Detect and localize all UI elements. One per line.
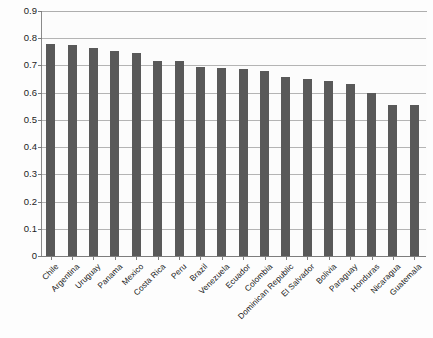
bar bbox=[367, 93, 376, 256]
y-axis-tick-mark bbox=[38, 65, 42, 66]
x-axis: ChileArgentinaUruguayPanamaMexicoCosta R… bbox=[41, 256, 426, 338]
bar-chart: 00.10.20.30.40.50.60.70.80.9 ChileArgent… bbox=[0, 0, 433, 338]
x-axis-tick-mark bbox=[72, 256, 73, 260]
y-axis-tick-label: 0.9 bbox=[3, 6, 37, 16]
bar bbox=[132, 53, 141, 256]
bars-layer bbox=[41, 11, 426, 256]
bar bbox=[260, 71, 269, 256]
bar bbox=[217, 68, 226, 256]
bar bbox=[410, 105, 419, 256]
y-axis: 00.10.20.30.40.50.60.70.80.9 bbox=[0, 0, 37, 338]
x-axis-tick-mark bbox=[136, 256, 137, 260]
y-axis-tick-label: 0.7 bbox=[3, 61, 37, 71]
y-axis-tick-label: 0.5 bbox=[3, 115, 37, 125]
y-axis-tick-label: 0.8 bbox=[3, 33, 37, 43]
bar bbox=[46, 44, 55, 256]
y-axis-tick-label: 0.3 bbox=[3, 170, 37, 180]
x-axis-tick-mark bbox=[93, 256, 94, 260]
bar bbox=[68, 45, 77, 256]
x-axis-tick-mark bbox=[393, 256, 394, 260]
bar bbox=[324, 81, 333, 256]
x-axis-tick-mark bbox=[307, 256, 308, 260]
y-axis-tick-mark bbox=[38, 93, 42, 94]
y-axis-tick-mark bbox=[38, 174, 42, 175]
x-axis-tick-mark bbox=[158, 256, 159, 260]
x-axis-tick-mark bbox=[350, 256, 351, 260]
x-axis-tick-mark bbox=[286, 256, 287, 260]
bar bbox=[196, 67, 205, 256]
x-axis-tick-mark bbox=[243, 256, 244, 260]
x-axis-tick-mark bbox=[179, 256, 180, 260]
y-axis-tick-label: 0 bbox=[3, 251, 37, 261]
bar bbox=[110, 51, 119, 256]
y-axis-tick-label: 0.4 bbox=[3, 142, 37, 152]
x-axis-tick-mark bbox=[372, 256, 373, 260]
y-axis-tick-mark bbox=[38, 38, 42, 39]
bar bbox=[175, 61, 184, 256]
y-axis-tick-mark bbox=[38, 120, 42, 121]
x-axis-tick-mark bbox=[329, 256, 330, 260]
x-axis-tick-mark bbox=[265, 256, 266, 260]
y-axis-tick-label: 0.2 bbox=[3, 197, 37, 207]
y-axis-tick-mark bbox=[38, 147, 42, 148]
y-axis-tick-mark bbox=[38, 229, 42, 230]
y-axis-tick-label: 0.1 bbox=[3, 224, 37, 234]
y-axis-tick-label: 0.6 bbox=[3, 88, 37, 98]
y-axis-tick-mark bbox=[38, 256, 42, 257]
bar bbox=[239, 69, 248, 256]
x-axis-tick-mark bbox=[200, 256, 201, 260]
y-axis-tick-mark bbox=[38, 11, 42, 12]
bar bbox=[89, 48, 98, 256]
y-axis-tick-mark bbox=[38, 202, 42, 203]
x-axis-tick-label: Peru bbox=[169, 262, 188, 281]
x-axis-tick-mark bbox=[414, 256, 415, 260]
bar bbox=[153, 61, 162, 256]
x-axis-tick-mark bbox=[115, 256, 116, 260]
bar bbox=[281, 77, 290, 256]
bar bbox=[303, 79, 312, 256]
bar bbox=[346, 84, 355, 256]
x-axis-tick-mark bbox=[51, 256, 52, 260]
bar bbox=[388, 105, 397, 256]
x-axis-tick-mark bbox=[222, 256, 223, 260]
